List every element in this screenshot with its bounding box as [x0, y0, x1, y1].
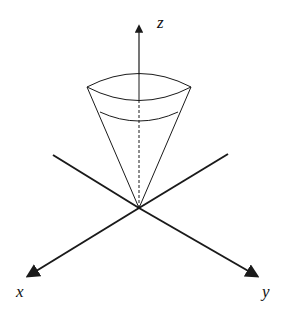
x-axis-label: x: [16, 282, 24, 302]
y-axis-label: y: [262, 282, 270, 302]
y-axis: [139, 154, 228, 208]
diagram-canvas: [0, 0, 289, 313]
z-axis-label: z: [157, 13, 164, 33]
x-axis: [53, 155, 139, 208]
